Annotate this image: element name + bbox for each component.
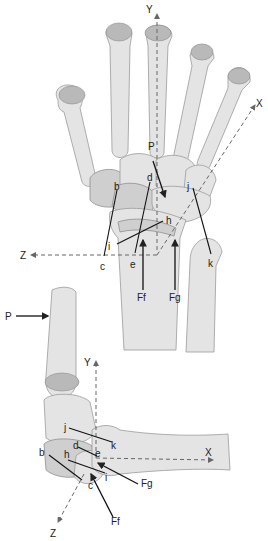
bottom-label-d: d (73, 440, 79, 451)
bottom-label-c: c (88, 480, 93, 491)
top-z-label: Z (20, 250, 26, 261)
bottom-z-label: Z (50, 528, 56, 539)
bottom-z-axis (58, 474, 84, 522)
bottom-label-i: i (105, 472, 107, 483)
top-x-label: X (256, 98, 263, 109)
bottom-force-ff-arrow (91, 474, 113, 517)
wrist-diagram: Y X Z P b d j h i c e k Ff Fg Y X Z (0, 0, 268, 541)
bottom-label-e: e (95, 448, 101, 459)
bottom-label-h: h (64, 449, 70, 460)
bottom-label-fg: Fg (141, 478, 153, 489)
bottom-label-p: P (5, 311, 12, 322)
top-forearm-bones (109, 208, 222, 352)
bottom-label-b: b (39, 447, 45, 458)
top-label-e: e (130, 259, 136, 270)
top-label-j: j (186, 181, 189, 192)
top-y-label: Y (146, 4, 153, 15)
top-label-fg: Fg (169, 292, 181, 303)
top-label-d: d (147, 172, 153, 183)
top-label-i: i (108, 241, 110, 252)
bottom-x-label: X (205, 447, 212, 458)
top-label-h: h (166, 215, 172, 226)
top-label-ff: Ff (137, 292, 146, 303)
top-label-b: b (114, 181, 120, 192)
bottom-label-ff: Ff (111, 516, 120, 527)
top-label-p: P (148, 141, 155, 152)
top-label-c: c (100, 261, 105, 272)
bottom-y-label: Y (84, 357, 91, 368)
bottom-label-j: j (63, 422, 66, 433)
